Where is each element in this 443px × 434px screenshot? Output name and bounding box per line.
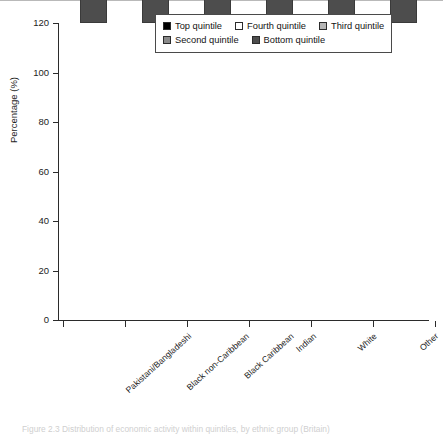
y-axis-tick-label: 40 [38,214,49,227]
stacked-bar[interactable] [80,0,107,23]
y-axis-tick: 20 [53,271,58,272]
x-axis-tick [249,321,250,327]
x-axis-tick [125,321,126,327]
legend-item[interactable]: Fourth quintile [235,19,306,33]
y-axis-tick: 60 [53,172,58,173]
legend-swatch-icon [252,36,260,44]
x-axis-category-label: Other [417,331,440,353]
plot-area: 020406080100120 Pakistani/BangladeshiBla… [58,23,429,320]
x-axis-category-label: Pakistani/Bangladeshi [123,331,193,395]
y-axis-tick: 80 [53,122,58,123]
y-axis-tick-label: 120 [33,16,49,29]
y-axis-tick: 0 [53,320,58,321]
x-axis-tick [311,321,312,327]
legend-item[interactable]: Top quintile [163,19,222,33]
figure-caption: Figure 2.3 Distribution of economic acti… [22,424,432,434]
x-axis-tick [63,321,64,327]
x-axis-tick [435,321,436,327]
legend-swatch-icon [235,22,243,30]
chart-legend: Top quintileFourth quintileThird quintil… [155,14,392,53]
legend-swatch-icon [163,22,171,30]
x-axis-category-label: Indian [294,331,318,354]
legend-label: Second quintile [175,33,239,47]
legend-label: Top quintile [175,19,222,33]
legend-swatch-icon [319,22,327,30]
y-axis-tick: 120 [53,23,58,24]
bar-segment[interactable] [390,0,417,23]
y-axis-tick: 40 [53,221,58,222]
y-axis-tick-label: 100 [33,66,49,79]
y-axis-tick-label: 60 [38,165,49,178]
y-axis-tick: 100 [53,73,58,74]
y-axis-tick-label: 20 [38,264,49,277]
legend-label: Fourth quintile [247,19,306,33]
legend-swatch-icon [163,36,171,44]
x-axis-category-label: Black non-Caribbean [184,331,250,392]
stacked-bar[interactable] [390,0,417,23]
x-axis-tick [373,321,374,327]
y-axis-tick-label: 80 [38,115,49,128]
bar-segment[interactable] [80,0,107,23]
y-axis-line [58,23,59,321]
legend-row: Second quintileBottom quintile [163,33,384,47]
y-axis-title: Percentage (%) [8,77,19,143]
legend-item[interactable]: Second quintile [163,33,239,47]
x-axis-category-label: White [355,331,378,353]
figure-stacked-bar-chart: 020406080100120 Pakistani/BangladeshiBla… [0,0,443,434]
legend-label: Third quintile [331,19,384,33]
legend-label: Bottom quintile [264,33,326,47]
legend-row: Top quintileFourth quintileThird quintil… [163,19,384,33]
legend-item[interactable]: Third quintile [319,19,384,33]
y-axis-tick-label: 0 [44,313,49,326]
x-axis-tick [187,321,188,327]
legend-item[interactable]: Bottom quintile [252,33,326,47]
